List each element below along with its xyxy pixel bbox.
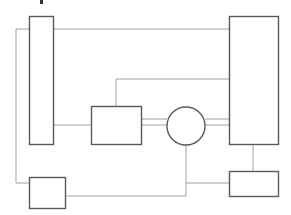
middle-box xyxy=(92,107,142,145)
connector-bottom-left-box-to-circle xyxy=(65,145,186,196)
bottom-left-box xyxy=(30,178,66,209)
connector-left-outer-loop xyxy=(16,29,29,183)
right-tall-rect xyxy=(230,17,279,145)
block-diagram xyxy=(0,0,291,215)
bottom-right-box xyxy=(230,172,279,197)
connector-middle-box-to-right-rect xyxy=(116,79,229,106)
circle-node xyxy=(167,107,205,145)
left-tall-rect xyxy=(30,17,54,145)
